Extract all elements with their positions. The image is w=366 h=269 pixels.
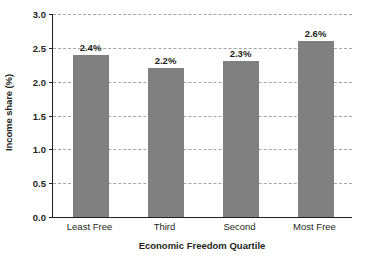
bar-value-label: 2.2% [155, 55, 177, 66]
y-tick-label: 1.5 [33, 110, 46, 121]
y-tick-label: 1.0 [33, 144, 46, 155]
y-tick-label: 2.0 [33, 76, 46, 87]
bar[interactable] [298, 41, 334, 217]
bar[interactable] [73, 55, 109, 217]
plot-area: 2.4%2.2%2.3%2.6% [52, 14, 352, 217]
bar-value-label: 2.6% [305, 28, 327, 39]
bar-value-label: 2.4% [80, 42, 102, 53]
bar[interactable] [223, 61, 259, 217]
bars-layer: 2.4%2.2%2.3%2.6% [53, 14, 352, 217]
bar-value-label: 2.3% [230, 48, 252, 59]
bar[interactable] [148, 68, 184, 217]
x-axis-title: Economic Freedom Quartile [52, 240, 352, 251]
x-axis-tick-labels: Least FreeThirdSecondMost Free [52, 221, 352, 239]
x-tick-label: Second [223, 221, 255, 232]
bar-chart: Income share (%) 3.02.52.01.51.00.50.0 2… [0, 0, 366, 269]
x-axis-line [52, 217, 352, 218]
x-tick-label: Third [154, 221, 176, 232]
x-tick-label: Most Free [293, 221, 336, 232]
y-tick-label: 3.0 [33, 9, 46, 20]
y-axis-tick-labels: 3.02.52.01.51.00.50.0 [18, 0, 50, 269]
y-axis-title: Income share (%) [0, 0, 18, 225]
y-tick-label: 0.0 [33, 212, 46, 223]
y-tick-label: 0.5 [33, 178, 46, 189]
x-tick-label: Least Free [67, 221, 112, 232]
y-axis-title-text: Income share (%) [4, 74, 15, 151]
y-tick-label: 2.5 [33, 42, 46, 53]
